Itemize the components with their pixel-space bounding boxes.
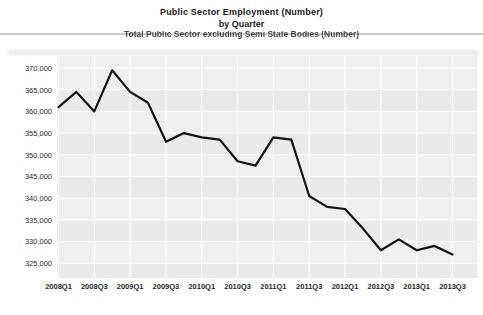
x-axis-tick-label: 2008Q1	[45, 282, 72, 291]
x-axis-tick-label: 2009Q3	[153, 282, 180, 291]
plot-band	[57, 90, 478, 112]
x-axis-tick-label: 2008Q3	[81, 282, 108, 291]
y-axis-tick-label: 360,000	[25, 107, 52, 116]
y-axis-tick-label: 345,000	[25, 172, 52, 181]
plot-band	[57, 133, 478, 155]
x-axis-tick-label: 2009Q1	[117, 282, 144, 291]
x-axis-tick-label: 2013Q1	[403, 282, 430, 291]
plot-band	[57, 220, 478, 242]
chart-figure: Public Sector Employment (Number) by Qua…	[0, 0, 483, 315]
plot-band	[57, 177, 478, 199]
y-axis-tick-label: 325,000	[25, 259, 52, 268]
y-axis-tick-label: 330,000	[25, 237, 52, 246]
y-axis-tick-label: 340,000	[25, 194, 52, 203]
chart-canvas: 325,000330,000335,000340,000345,000350,0…	[0, 0, 483, 315]
x-axis-tick-label: 2011Q3	[296, 282, 322, 291]
plot-band	[57, 263, 478, 278]
y-axis-tick-label: 355,000	[25, 129, 52, 138]
x-axis-tick-label: 2010Q3	[224, 282, 251, 291]
y-axis-tick-label: 370,000	[25, 64, 52, 73]
x-axis-tick-label: 2011Q1	[260, 282, 286, 291]
x-axis-tick-label: 2012Q3	[368, 282, 395, 291]
y-axis-tick-label: 365,000	[25, 86, 52, 95]
y-axis-tick-label: 350,000	[25, 151, 52, 160]
x-axis-tick-label: 2010Q1	[188, 282, 215, 291]
y-axis-tick-label: 335,000	[25, 216, 52, 225]
x-axis-tick-label: 2013Q3	[439, 282, 466, 291]
x-axis-tick-label: 2012Q1	[332, 282, 359, 291]
